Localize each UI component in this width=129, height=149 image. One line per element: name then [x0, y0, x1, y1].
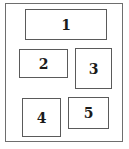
region-label-3: 3 — [89, 62, 99, 76]
region-box-2: 2 — [19, 49, 68, 78]
region-box-3: 3 — [75, 48, 112, 89]
region-box-4: 4 — [22, 98, 61, 137]
region-label-1: 1 — [61, 18, 71, 32]
region-label-5: 5 — [84, 106, 94, 120]
region-box-1: 1 — [25, 9, 107, 40]
region-label-2: 2 — [39, 57, 49, 71]
region-label-4: 4 — [37, 111, 47, 125]
region-box-5: 5 — [68, 97, 109, 129]
